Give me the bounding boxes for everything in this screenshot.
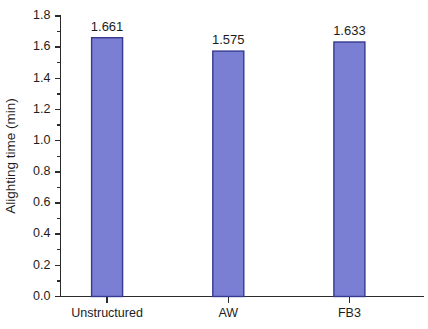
bar-value-label: 1.633 [333,23,366,38]
bar-value-label: 1.661 [91,19,124,34]
x-tick-label: FB3 [338,306,361,320]
y-tick-label: 0.2 [33,258,50,272]
x-tick-label: AW [218,306,238,320]
bar [213,51,244,296]
y-tick-label: 0.6 [33,195,50,209]
chart-canvas: 0.00.20.40.60.81.01.21.41.61.8 Alighting… [0,0,428,329]
bar-chart: 0.00.20.40.60.81.01.21.41.61.8 Alighting… [0,0,428,329]
y-tick-label: 1.0 [33,133,50,147]
y-tick-label: 1.4 [33,71,50,85]
bar-value-label: 1.575 [212,32,245,47]
y-tick-label: 0.8 [33,164,50,178]
y-tick-label: 1.6 [33,39,50,53]
y-tick-label: 0.4 [33,226,50,240]
y-tick-label: 1.2 [33,102,50,116]
x-tick-label: Unstructured [71,306,143,320]
y-axis-title: Alighting time (min) [3,98,18,214]
y-tick-label: 0.0 [33,289,50,303]
bar [92,38,123,297]
y-tick-label: 1.8 [33,8,50,22]
bar [334,42,365,297]
